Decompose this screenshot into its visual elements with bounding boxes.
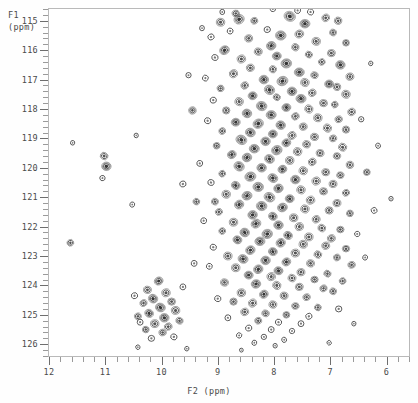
f1-tick-label: 118 [22,105,38,114]
f1-major-tick [40,138,48,139]
f1-major-tick [40,80,48,81]
f2-major-tick [105,357,106,365]
f2-minor-tick [285,357,286,362]
f1-major-tick [40,315,48,316]
f2-minor-tick [342,357,343,362]
f2-major-tick [218,357,219,365]
f1-axis-tick-labels: 115116117118119120121122123124125126 [0,0,38,403]
f2-minor-tick [308,357,309,362]
f1-major-tick [40,50,48,51]
f2-minor-tick [353,357,354,362]
f1-tick-label: 126 [22,340,38,349]
f2-minor-tick [195,357,196,362]
f2-major-tick [387,357,388,365]
f2-major-tick [49,357,50,365]
f1-tick-label: 115 [22,17,38,26]
f2-minor-tick [409,357,410,362]
f1-tick-label: 117 [22,76,38,85]
f2-axis-ticks [48,357,410,366]
f1-tick-label: 116 [22,46,38,55]
f2-tick-label: 7 [310,368,350,377]
f1-tick-label: 120 [22,164,38,173]
f2-minor-tick [94,357,95,362]
f2-minor-tick [297,357,298,362]
f1-major-tick [40,344,48,345]
f1-major-tick [40,21,48,22]
f1-major-tick [40,256,48,257]
f2-minor-tick [263,357,264,362]
f1-major-tick [40,109,48,110]
f2-minor-tick [364,357,365,362]
f2-major-tick [162,357,163,365]
nmr-spectrum-figure: F1 (ppm) 1151161171181191201211221231241… [0,0,418,403]
f2-minor-tick [60,357,61,362]
f1-tick-label: 124 [22,281,38,290]
f2-axis-tick-labels: 1211109876 [0,368,418,380]
f1-tick-label: 119 [22,134,38,143]
f1-major-tick [40,227,48,228]
f2-minor-tick [83,357,84,362]
f1-major-tick [40,285,48,286]
f2-minor-tick [150,357,151,362]
f2-axis-title: F2 (ppm) [0,386,418,396]
f1-major-tick [40,197,48,198]
f2-tick-label: 6 [367,368,407,377]
f2-minor-tick [117,357,118,362]
f1-major-tick [40,168,48,169]
f2-major-tick [330,357,331,365]
f2-minor-tick [173,357,174,362]
f2-minor-tick [252,357,253,362]
cross-peak-contours [49,9,409,356]
f2-minor-tick [72,357,73,362]
f2-minor-tick [139,357,140,362]
f2-tick-label: 8 [254,368,294,377]
f2-tick-label: 12 [29,368,69,377]
f1-axis-ticks [40,8,48,357]
f2-minor-tick [207,357,208,362]
f2-tick-label: 11 [85,368,125,377]
f1-tick-label: 121 [22,193,38,202]
f2-minor-tick [319,357,320,362]
f2-tick-label: 9 [198,368,238,377]
spectrum-plot-area [48,8,410,357]
f2-tick-label: 10 [142,368,182,377]
f2-minor-tick [375,357,376,362]
f2-major-tick [274,357,275,365]
f2-minor-tick [184,357,185,362]
f2-minor-tick [240,357,241,362]
f1-tick-label: 123 [22,252,38,261]
f1-tick-label: 125 [22,311,38,320]
f1-tick-label: 122 [22,223,38,232]
f2-minor-tick [128,357,129,362]
f2-minor-tick [398,357,399,362]
f2-minor-tick [229,357,230,362]
